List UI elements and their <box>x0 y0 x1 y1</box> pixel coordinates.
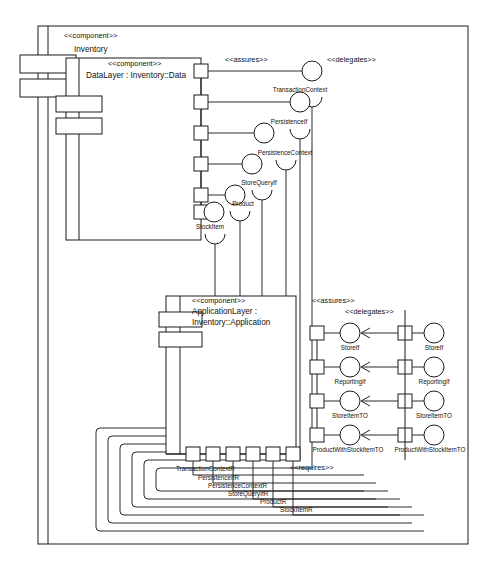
req-label-storequeryifr: StoreQueryIfR <box>228 490 269 498</box>
diagram-canvas: <<component>> Inventory <<component>> Da… <box>0 0 483 561</box>
assures-top-label: <<assures>> <box>225 55 268 64</box>
assures-mid-label: <<assures>> <box>312 296 355 305</box>
inventory-name-label: Inventory <box>74 45 109 54</box>
app-iface-label-storeif: StoreIf <box>341 344 360 351</box>
app-iface-label-productwithstockitemto: ProductWithStockItemTO <box>313 446 384 453</box>
datalayer-name-label: DataLayer : Inventory::Data <box>86 71 187 80</box>
delegates-top-label: <<delegates>> <box>327 55 376 64</box>
datalayer-port-stockitem[interactable] <box>194 202 224 222</box>
applicationlayer-name-line1: ApplicationLayer : <box>192 307 257 316</box>
app-iface-label-reportingif: ReportingIf <box>335 378 366 386</box>
datalayer-stereotype-label: <<component>> <box>108 59 161 68</box>
iface-label-storequeryif: StoreQueryIf <box>241 179 277 187</box>
req-label-stockitemr: StockItemR <box>280 506 313 513</box>
iface-label-persistenceif: PersistenceIf <box>271 118 308 125</box>
applicationlayer-name-line2: Inventory::Application <box>192 318 271 327</box>
req-label-productr: ProductR <box>260 498 287 505</box>
iface-label-stockitem: StockItem <box>196 223 224 230</box>
inventory-iface-label-storeitemto: StoreItemTO <box>416 412 452 419</box>
req-label-transactioncontextr: TransactionContextR <box>176 465 235 472</box>
requires-label: <<requires>> <box>290 463 333 472</box>
inventory-iface-label-storeif: StoreIf <box>425 344 444 351</box>
iface-label-product: Product <box>232 200 254 207</box>
datalayer-component-frame <box>66 58 201 240</box>
app-iface-label-storeitemto: StoreItemTO <box>332 412 368 419</box>
applicationlayer-stereotype-label: <<component>> <box>192 296 245 305</box>
inventory-stereotype-label: <<component>> <box>64 31 117 40</box>
inventory-iface-label-reportingif: ReportingIf <box>419 378 450 386</box>
delegates-mid-label: <<delegates>> <box>345 307 394 316</box>
req-label-persistencecontextr: PersistenceContextR <box>208 482 268 489</box>
uml-component-diagram: <<component>> Inventory <<component>> Da… <box>0 0 483 561</box>
iface-label-persistencecontext: PersistenceContext <box>258 149 313 156</box>
